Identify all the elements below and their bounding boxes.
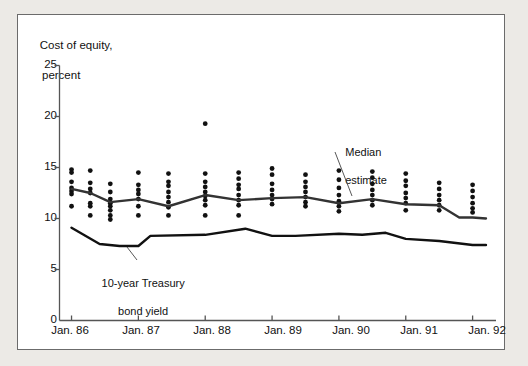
- scatter-point: [136, 213, 141, 218]
- scatter-point: [270, 188, 275, 193]
- scatter-point: [437, 208, 442, 213]
- scatter-point: [136, 170, 141, 175]
- scatter-point: [437, 180, 442, 185]
- scatter-point: [166, 213, 171, 218]
- scatter-point: [88, 204, 93, 209]
- scatter-point: [470, 195, 475, 200]
- scatter-point: [136, 182, 141, 187]
- scatter-point: [203, 184, 208, 189]
- scatter-point: [108, 217, 113, 222]
- scatter-point: [437, 187, 442, 192]
- scatter-point: [370, 175, 375, 180]
- scatter-point: [166, 190, 171, 195]
- annotation-leader-treasury: [127, 247, 137, 260]
- scatter-point: [403, 178, 408, 183]
- scatter-point: [403, 196, 408, 201]
- scatter-point: [370, 203, 375, 208]
- scatter-point: [270, 172, 275, 177]
- scatter-point: [370, 188, 375, 193]
- scatter-point: [337, 186, 342, 191]
- scatter-point: [88, 180, 93, 185]
- scatter-point: [236, 193, 241, 198]
- scatter-point: [370, 169, 375, 174]
- line-series-median-estimate: [72, 189, 486, 219]
- scatter-point: [370, 181, 375, 186]
- scatter-point: [166, 200, 171, 205]
- scatter-point: [403, 191, 408, 196]
- scatter-point: [470, 201, 475, 206]
- scatter-point: [437, 198, 442, 203]
- scatter-point: [270, 181, 275, 186]
- plot-canvas: [0, 0, 528, 366]
- scatter-point: [470, 182, 475, 187]
- scatter-point: [69, 204, 74, 209]
- scatter-point: [166, 195, 171, 200]
- scatter-point: [337, 168, 342, 173]
- scatter-point: [236, 203, 241, 208]
- scatter-point: [303, 179, 308, 184]
- scatter-point: [403, 183, 408, 188]
- scatter-point: [236, 176, 241, 181]
- scatter-point: [370, 193, 375, 198]
- scatter-point: [108, 190, 113, 195]
- scatter-point: [236, 170, 241, 175]
- scatter-point: [337, 177, 342, 182]
- scatter-point: [303, 172, 308, 177]
- scatter-point: [166, 171, 171, 176]
- line-series-treasury-yield: [72, 228, 486, 246]
- scatter-point: [337, 204, 342, 209]
- scatter-point: [303, 184, 308, 189]
- scatter-point: [236, 213, 241, 218]
- scatter-point: [437, 193, 442, 198]
- scatter-point: [470, 189, 475, 194]
- scatter-point: [203, 203, 208, 208]
- scatter-point: [69, 170, 74, 175]
- scatter-point: [203, 179, 208, 184]
- scatter-point: [88, 213, 93, 218]
- scatter-point: [88, 168, 93, 173]
- scatter-point: [470, 210, 475, 215]
- scatter-point: [203, 171, 208, 176]
- scatter-point: [270, 202, 275, 207]
- scatter-point: [136, 204, 141, 209]
- scatter-point: [270, 166, 275, 171]
- scatter-point: [203, 213, 208, 218]
- scatter-point: [166, 183, 171, 188]
- scatter-point: [108, 181, 113, 186]
- scatter-point: [303, 204, 308, 209]
- scatter-point: [203, 198, 208, 203]
- scatter-point: [203, 121, 208, 126]
- scatter-point: [303, 190, 308, 195]
- scatter-point: [403, 208, 408, 213]
- scatter-point: [337, 193, 342, 198]
- scatter-point: [403, 171, 408, 176]
- scatter-point: [236, 187, 241, 192]
- figure-root: Cost of equity, percent 25 20 15 10 5 0 …: [0, 0, 528, 366]
- scatter-point: [337, 209, 342, 214]
- scatter-point: [108, 208, 113, 213]
- scatter-point: [69, 179, 74, 184]
- scatter-point: [136, 192, 141, 197]
- scatter-point: [69, 192, 74, 197]
